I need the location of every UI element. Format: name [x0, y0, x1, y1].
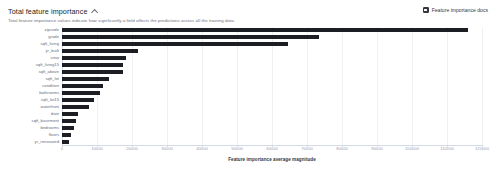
- y-axis-label: date: [51, 112, 59, 116]
- bar[interactable]: [62, 28, 468, 32]
- bar[interactable]: [62, 77, 109, 81]
- y-axis-label: sqft_basement: [32, 119, 59, 123]
- panel-header-left: Total feature importance: [8, 7, 99, 16]
- bar-row[interactable]: [62, 70, 482, 74]
- bar-row[interactable]: [62, 77, 482, 81]
- x-tick-label: 110000: [440, 146, 454, 151]
- bar[interactable]: [62, 56, 126, 60]
- bar-row[interactable]: [62, 91, 482, 95]
- y-axis-label: floors: [49, 132, 59, 136]
- x-tick-label: 40000: [196, 146, 208, 151]
- x-tick-label: 90000: [371, 146, 383, 151]
- x-tick-label: 60000: [266, 146, 278, 151]
- bar[interactable]: [62, 70, 123, 74]
- chevron-up-icon[interactable]: [92, 8, 99, 15]
- y-axis-label: sqft_lot: [45, 77, 59, 81]
- bar[interactable]: [62, 63, 123, 67]
- documentation-icon: [423, 7, 429, 13]
- x-tick-label: 120000: [475, 146, 489, 151]
- x-tick-label: 80000: [336, 146, 348, 151]
- y-axis-label: bedrooms: [40, 126, 59, 130]
- bar-row[interactable]: [62, 112, 482, 116]
- y-axis-label: yr_renovated: [35, 139, 59, 143]
- bar-row[interactable]: [62, 63, 482, 67]
- bar-row[interactable]: [62, 119, 482, 123]
- bar-rows: [62, 27, 482, 145]
- panel-subtitle: Total feature importance values indicate…: [8, 18, 488, 24]
- bar[interactable]: [62, 105, 89, 109]
- y-axis-label: zipcode: [45, 28, 59, 32]
- bar[interactable]: [62, 91, 100, 95]
- feature-importance-docs-link[interactable]: Feature importance docs: [423, 7, 488, 13]
- bar[interactable]: [62, 49, 138, 53]
- y-axis-label: sqft_lot15: [41, 98, 59, 102]
- bar-row[interactable]: [62, 133, 482, 137]
- x-tick-label: 70000: [301, 146, 313, 151]
- grid-line: [482, 27, 483, 145]
- bar-row[interactable]: [62, 105, 482, 109]
- x-tick-label: 0: [61, 146, 63, 151]
- docs-link-label: Feature importance docs: [432, 7, 488, 13]
- y-axis-label: sqft_above: [39, 70, 60, 74]
- x-axis-title: Feature importance average magnitude: [62, 157, 482, 162]
- bar[interactable]: [62, 133, 71, 137]
- bar-row[interactable]: [62, 42, 482, 46]
- y-axis-label: waterfront: [40, 105, 59, 109]
- x-tick-label: 20000: [126, 146, 138, 151]
- y-axis-label: bathrooms: [39, 91, 59, 95]
- y-axis-label: yr_built: [46, 49, 60, 53]
- panel-header: Total feature importance Feature importa…: [8, 7, 488, 16]
- y-axis-label: sqft_living: [40, 42, 59, 46]
- y-axis-labels: zipcodegradesqft_livingyr_builtviewsqft_…: [8, 27, 62, 145]
- y-axis-label: view: [51, 56, 59, 60]
- x-tick-label: 30000: [161, 146, 173, 151]
- y-axis-label: grade: [48, 35, 59, 39]
- bar[interactable]: [62, 98, 94, 102]
- bar[interactable]: [62, 42, 288, 46]
- x-tick-label: 100000: [405, 146, 419, 151]
- bar[interactable]: [62, 140, 69, 144]
- bar[interactable]: [62, 35, 319, 39]
- y-axis-label: condition: [42, 84, 59, 88]
- bar-row[interactable]: [62, 35, 482, 39]
- bar-row[interactable]: [62, 56, 482, 60]
- bar[interactable]: [62, 119, 76, 123]
- total-feature-importance-panel: Total feature importance Feature importa…: [0, 0, 496, 180]
- bar[interactable]: [62, 112, 78, 116]
- bar-row[interactable]: [62, 84, 482, 88]
- x-tick-label: 10000: [91, 146, 103, 151]
- page-title: Total feature importance: [8, 7, 88, 16]
- bar-row[interactable]: [62, 28, 482, 32]
- feature-importance-chart: zipcodegradesqft_livingyr_builtviewsqft_…: [8, 27, 488, 167]
- bar-row[interactable]: [62, 49, 482, 53]
- bar[interactable]: [62, 84, 103, 88]
- bar-row[interactable]: [62, 98, 482, 102]
- x-tick-label: 50000: [231, 146, 243, 151]
- bar[interactable]: [62, 126, 74, 130]
- plot-area: 0100002000030000400005000060000700008000…: [62, 27, 482, 145]
- y-axis-label: sqft_living15: [36, 63, 59, 67]
- bar-row[interactable]: [62, 126, 482, 130]
- bar-row[interactable]: [62, 140, 482, 144]
